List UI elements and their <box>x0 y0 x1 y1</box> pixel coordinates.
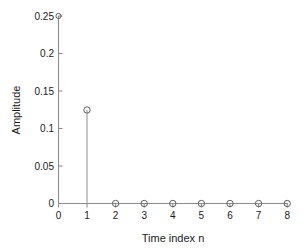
y-tick-label-3: 0.15 <box>35 86 55 97</box>
x-tick-label-8: 8 <box>284 210 290 221</box>
x-axis-title: Time index n <box>142 232 205 244</box>
x-tick-label-4: 4 <box>170 210 176 221</box>
data-markers <box>84 107 291 207</box>
figure-canvas: 0 0.05 0.1 0.15 0.2 0.25 0 1 2 3 4 5 <box>0 0 308 249</box>
x-tick-label-5: 5 <box>199 210 205 221</box>
stem-plot: 0 0.05 0.1 0.15 0.2 0.25 0 1 2 3 4 5 <box>0 0 308 249</box>
y-axis-title: Amplitude <box>10 86 22 135</box>
x-axis-tick-labels: 0 1 2 3 4 5 6 7 8 <box>56 210 291 221</box>
x-tick-label-7: 7 <box>256 210 262 221</box>
y-tick-label-5: 0.25 <box>35 11 55 22</box>
x-tick-label-0: 0 <box>56 210 62 221</box>
y-axis-tick-labels: 0 0.05 0.1 0.15 0.2 0.25 <box>35 11 55 210</box>
x-tick-label-1: 1 <box>84 210 90 221</box>
y-tick-label-1: 0.05 <box>35 161 55 172</box>
x-tick-label-6: 6 <box>227 210 233 221</box>
y-tick-label-2: 0.1 <box>40 123 54 134</box>
x-tick-label-2: 2 <box>113 210 119 221</box>
y-tick-label-0: 0 <box>48 198 54 209</box>
y-tick-label-4: 0.2 <box>40 48 54 59</box>
y-axis-ticks <box>59 16 63 204</box>
x-tick-label-3: 3 <box>141 210 147 221</box>
